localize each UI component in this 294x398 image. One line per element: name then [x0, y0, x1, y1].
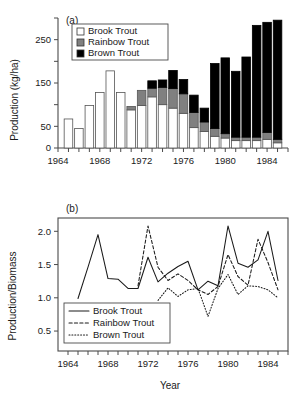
bar-segment-brown	[252, 25, 261, 137]
bar-segment-brook	[221, 138, 230, 148]
panel-b-x-tick-label: 1984	[257, 358, 278, 369]
figure-container: (a) Production (kg/ha) 050150250 1964196…	[0, 0, 294, 398]
bar-segment-brown	[273, 20, 282, 139]
panel-a-legend-label: Brown Trout	[88, 47, 140, 58]
bar-segment-brook	[85, 106, 94, 148]
panel-b-legend-label: Brown Trout	[93, 329, 145, 340]
panel-b-y-tick-label: 2.0	[38, 226, 51, 237]
bar-segment-rainbow	[179, 94, 188, 114]
panel-a-x-tick-label: 1968	[89, 155, 110, 166]
bar-segment-rainbow	[221, 134, 230, 138]
bar-segment-rainbow	[190, 112, 199, 127]
panel-b-x-tick-label: 1976	[177, 358, 198, 369]
bar-segment-rainbow	[148, 88, 157, 97]
panel-a-x-axis: 196419681972197619801984	[47, 148, 288, 166]
panel-a-x-tick-label: 1984	[257, 155, 278, 166]
panel-b-x-tick-label: 1964	[57, 358, 78, 369]
panel-a-y-tick-label: 150	[35, 77, 51, 88]
bar-segment-brook	[179, 113, 188, 148]
panel-a-y-tick-label: 50	[40, 121, 51, 132]
panel-b-legend-label: Brook Trout	[93, 305, 142, 316]
line-series-brown	[158, 275, 278, 317]
panel-b-x-axis-label: Year	[160, 380, 181, 391]
panel-a-legend-label: Brook Trout	[88, 25, 137, 36]
panel-a-x-tick-label: 1980	[215, 155, 236, 166]
panel-b-y-tick-label: 1.0	[38, 292, 51, 303]
bar-segment-brook	[116, 93, 125, 148]
panel-a-x-tick-label: 1972	[131, 155, 152, 166]
bar-segment-brook	[169, 108, 178, 148]
bar-segment-brown	[221, 58, 230, 134]
bar-segment-brown	[211, 64, 220, 129]
bar-segment-rainbow	[252, 137, 261, 140]
panel-a-x-tick-label: 1976	[173, 155, 194, 166]
bar-segment-brook	[211, 136, 220, 148]
panel-a-y-tick-label: 0	[46, 142, 51, 153]
bar-segment-brook	[263, 139, 272, 148]
bar-segment-rainbow	[127, 106, 136, 109]
panel-a-x-tick-label: 1964	[47, 155, 68, 166]
panel-b-tag: (b)	[66, 203, 78, 214]
bar-segment-brook	[137, 106, 146, 148]
bar-segment-brown	[242, 57, 251, 137]
panel-a-legend-label: Rainbow Trout	[88, 36, 150, 47]
bar-segment-brook	[106, 71, 115, 148]
panel-a-legend-swatch	[77, 50, 84, 57]
bar-segment-brook	[148, 97, 157, 148]
panel-b-y-axis-label: Production/Biomass	[7, 252, 18, 341]
bar-segment-brook	[64, 119, 73, 148]
panel-a-legend: Brook TroutRainbow TroutBrown Trout	[72, 24, 168, 60]
bar-segment-brown	[200, 108, 209, 122]
bar-segment-brook	[273, 143, 282, 148]
panel-b-line-chart: (b) Production/Biomass Year 0.51.01.52.0…	[0, 196, 294, 398]
bar-segment-rainbow	[273, 139, 282, 142]
bar-segment-brook	[242, 141, 251, 148]
panel-b-legend: Brook TroutRainbow TroutBrown Trout	[64, 303, 170, 343]
panel-b-x-tick-label: 1972	[137, 358, 158, 369]
bar-segment-brook	[200, 132, 209, 148]
bar-segment-brook	[96, 93, 105, 148]
line-series-brook	[78, 226, 278, 298]
bar-segment-rainbow	[169, 89, 178, 109]
bar-segment-rainbow	[200, 122, 209, 132]
bar-segment-brook	[190, 128, 199, 148]
bar-segment-brown	[158, 80, 167, 87]
panel-a-legend-swatch	[77, 28, 84, 35]
bar-segment-rainbow	[211, 129, 220, 137]
panel-b-x-axis: 196419681972197619801984	[57, 351, 288, 369]
bar-segment-rainbow	[242, 137, 251, 140]
panel-b-legend-label: Rainbow Trout	[93, 317, 155, 328]
bar-segment-rainbow	[231, 137, 240, 140]
panel-b-y-tick-label: 0.5	[38, 325, 51, 336]
panel-b-y-axis: 0.51.01.52.0	[38, 226, 58, 337]
panel-a-y-tick-label: 250	[35, 34, 51, 45]
panel-b-x-tick-label: 1980	[217, 358, 238, 369]
bar-segment-brook	[158, 105, 167, 148]
bar-segment-rainbow	[158, 87, 167, 104]
bar-segment-brown	[190, 95, 199, 112]
panel-a-legend-swatch	[77, 39, 84, 46]
bar-segment-rainbow	[263, 132, 272, 139]
bar-segment-rainbow	[137, 90, 146, 105]
panel-a-bar-chart: (a) Production (kg/ha) 050150250 1964196…	[0, 0, 294, 196]
bar-segment-brown	[263, 22, 272, 132]
panel-b-y-tick-label: 1.5	[38, 259, 51, 270]
panel-a-y-axis: 050150250	[35, 18, 58, 153]
bar-segment-brook	[231, 141, 240, 148]
bar-segment-brook	[75, 129, 84, 149]
bar-segment-brown	[148, 81, 157, 88]
panel-a-y-axis-label: Production (kg/ha)	[9, 59, 20, 141]
bar-segment-brown	[179, 80, 188, 94]
bar-segment-brook	[252, 141, 261, 148]
bar-segment-brown	[169, 70, 178, 88]
bar-segment-brook	[127, 110, 136, 148]
bar-segment-brown	[231, 71, 240, 137]
panel-b-x-tick-label: 1968	[97, 358, 118, 369]
